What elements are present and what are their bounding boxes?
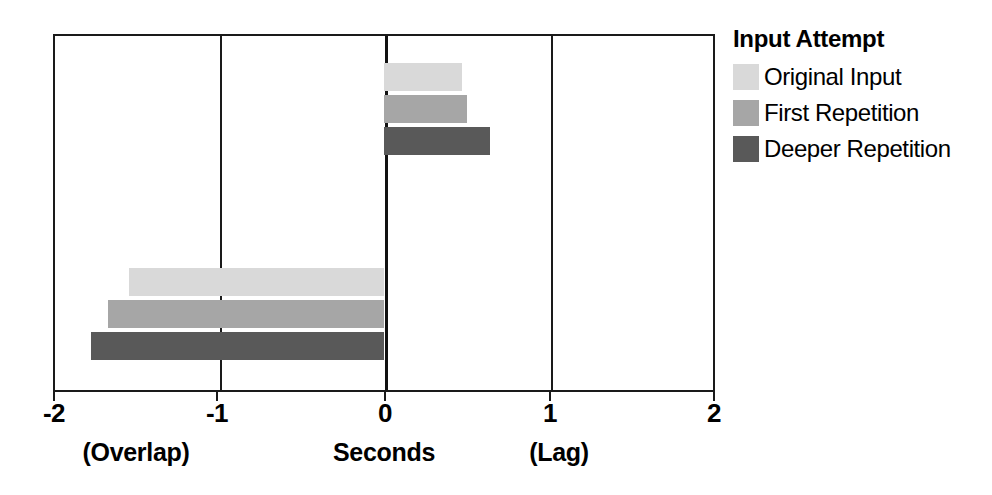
legend-swatch-first-repetition [733,100,759,126]
tick-label-zero: 0 [355,398,415,428]
legend-title: Input Attempt [733,24,989,54]
bar-original-input-negative [129,268,384,296]
tick-label-plus-two: 2 [684,398,744,428]
tick-label-plus-one: 1 [520,398,580,428]
legend-label-deeper-repetition: Deeper Repetition [764,134,951,164]
bar-deeper-repetition-positive [384,127,490,155]
bar-first-repetition-negative [108,300,384,328]
bar-chart: -2 -1 0 1 2 (Overlap) Seconds (Lag) Inpu… [0,0,992,495]
legend-label-original-input: Original Input [764,62,901,92]
legend-swatch-deeper-repetition [733,136,759,162]
tick-label-minus-two: -2 [24,398,84,428]
legend-item-original-input[interactable]: Original Input [733,59,989,95]
legend-swatch-original-input [733,64,759,90]
tick-label-minus-one: -1 [187,398,247,428]
legend-label-first-repetition: First Repetition [764,98,919,128]
legend: Input Attempt Original Input First Repet… [733,24,989,167]
bars-layer [53,34,715,392]
axis-caption-overlap: (Overlap) [16,437,256,467]
legend-item-first-repetition[interactable]: First Repetition [733,95,989,131]
bar-original-input-positive [384,63,462,91]
bar-deeper-repetition-negative [91,332,384,360]
axis-caption-lag: (Lag) [439,437,679,467]
bar-first-repetition-positive [384,95,467,123]
legend-item-deeper-repetition[interactable]: Deeper Repetition [733,131,989,167]
